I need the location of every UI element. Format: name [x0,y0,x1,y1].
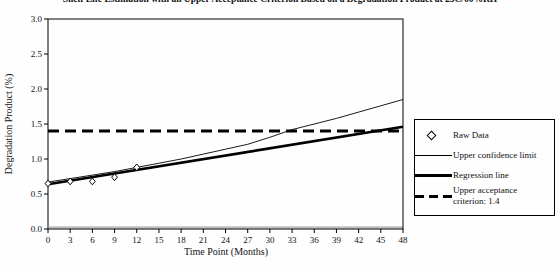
x-axis-tick-label: 9 [112,235,117,245]
raw-data-point [45,180,51,187]
x-axis-tick-label: 45 [376,235,386,245]
x-axis-tick-label: 42 [354,235,363,245]
plot-frame [48,19,403,229]
x-axis-tick-label: 3 [68,235,73,245]
x-axis-tick-label: 21 [199,235,208,245]
legend-item-label: Raw Data [453,130,551,141]
y-axis-label: Degradation Product (%) [3,24,17,224]
legend-box: Raw DataUpper confidence limitRegression… [414,119,555,216]
y-axis-tick-label: 3.0 [31,14,43,24]
thin-line-swatch-icon [415,155,452,156]
x-axis-label: Time Point (Months) [48,246,404,257]
x-axis-tick-label: 24 [221,235,231,245]
x-axis-tick-label: 6 [90,235,95,245]
legend-item: Raw Data [415,125,554,145]
legend-item-label: Regression line [453,170,551,181]
x-axis-tick-label: 39 [332,235,342,245]
legend-swatch-column [415,174,453,177]
legend-swatch-column [415,155,453,156]
x-axis-tick-label: 15 [154,235,164,245]
raw-data-point [89,178,95,185]
y-axis-tick-label: 1.5 [31,119,43,129]
x-axis-tick-label: 18 [177,235,187,245]
series-upper-confidence-limit [48,100,403,183]
legend-item: Regression line [415,165,554,185]
y-axis-tick-label: 0.0 [31,224,43,234]
y-axis-tick-label: 0.5 [31,189,43,199]
x-axis-tick-label: 48 [399,235,409,245]
stability-chart-figure: Shelf Life Estimation with an Upper Acce… [0,0,559,270]
x-axis-tick-label: 36 [310,235,320,245]
diamond-marker-icon [427,130,437,140]
x-axis-tick-label: 33 [288,235,298,245]
legend-item: Upper confidence limit [415,145,554,165]
thick-line-swatch-icon [415,174,452,177]
x-axis-tick-label: 0 [46,235,51,245]
y-axis-tick-label: 1.0 [31,154,43,164]
legend-item: Upper acceptance criterion: 1.4 [415,185,554,207]
x-axis-tick-label: 12 [132,235,141,245]
legend-swatch-column [415,132,453,139]
series-regression-line [48,127,403,184]
y-axis-tick-label: 2.0 [31,84,43,94]
legend-item-label: Upper acceptance criterion: 1.4 [453,185,551,207]
legend-swatch-column [415,195,453,198]
legend-item-label: Upper confidence limit [453,150,551,161]
x-axis-tick-label: 30 [265,235,275,245]
x-axis-tick-label: 27 [243,235,253,245]
dashed-line-swatch-icon [415,195,452,198]
y-axis-tick-label: 2.5 [31,49,43,59]
